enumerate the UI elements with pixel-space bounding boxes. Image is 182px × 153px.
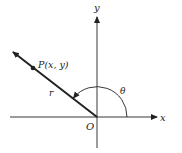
polar-angle-diagram: y x O P(x, y) r θ [0, 0, 182, 153]
diagram-canvas: y x O P(x, y) r θ [0, 0, 182, 153]
origin-label: O [86, 121, 94, 132]
angle-label: θ [120, 86, 126, 96]
radius-label: r [49, 88, 54, 98]
point-label: P(x, y) [37, 59, 69, 70]
point-p-marker [31, 66, 36, 71]
y-axis-label: y [93, 2, 100, 13]
x-axis-label: x [160, 112, 166, 123]
angle-arc [74, 87, 128, 117]
